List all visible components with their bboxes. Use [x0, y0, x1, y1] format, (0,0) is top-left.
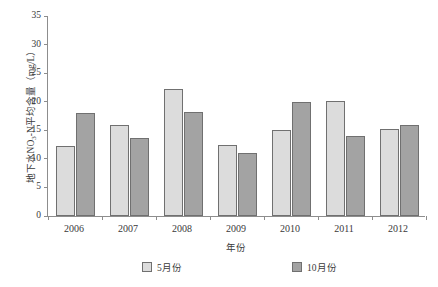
bar: [400, 125, 419, 216]
y-axis-tick-label: 25: [32, 66, 42, 79]
x-axis-title: 年份: [47, 240, 425, 254]
x-axis-tick-mark: [264, 216, 265, 220]
bar-group: [110, 17, 149, 216]
y-axis-tick-label: 15: [32, 123, 42, 136]
bar-group: [56, 17, 95, 216]
bar-group: [380, 17, 419, 216]
x-axis-tick-label: 2007: [98, 222, 158, 236]
bar-group: [164, 17, 203, 216]
y-axis-tick-label: 5: [36, 180, 41, 193]
bar-group: [272, 17, 311, 216]
plot-area: 05101520253035: [47, 17, 425, 217]
chart-figure: 地下水NO3-N平均含量（mg/L） 05101520253035 200620…: [0, 0, 438, 287]
bar: [76, 113, 95, 216]
x-axis-tick-label: 2010: [260, 222, 320, 236]
legend-label: 5月份: [157, 260, 182, 274]
x-axis-tick-mark: [48, 216, 49, 220]
bar: [110, 125, 129, 216]
x-axis-tick-mark: [372, 216, 373, 220]
bar-group: [326, 17, 365, 216]
x-axis-tick-mark: [318, 216, 319, 220]
bar: [218, 145, 237, 216]
bar: [272, 130, 291, 216]
legend-item[interactable]: 10月份: [292, 260, 337, 274]
bar: [326, 101, 345, 216]
x-axis-tick-mark: [102, 216, 103, 220]
bar: [184, 112, 203, 216]
legend-swatch-icon: [292, 262, 302, 272]
x-axis-tick-label: 2012: [368, 222, 428, 236]
y-axis-tick-label: 35: [32, 9, 42, 22]
x-axis-tick-label: 2008: [152, 222, 212, 236]
bar: [292, 102, 311, 216]
bar: [346, 136, 365, 216]
bar-group: [218, 17, 257, 216]
bar: [380, 129, 399, 216]
legend-label: 10月份: [307, 260, 337, 274]
bar-series-container: [48, 17, 425, 216]
y-axis-tick-label: 10: [32, 152, 42, 165]
y-axis-tick-label: 20: [32, 95, 42, 108]
y-axis-tick-label: 30: [32, 38, 42, 51]
bar: [130, 138, 149, 216]
x-axis-tick-label: 2009: [206, 222, 266, 236]
bar: [238, 153, 257, 216]
bar: [56, 146, 75, 216]
bar: [164, 89, 183, 216]
x-axis-tick-label: 2006: [44, 222, 104, 236]
x-axis-tick-mark: [210, 216, 211, 220]
x-axis-tick-mark: [156, 216, 157, 220]
legend-swatch-icon: [142, 262, 152, 272]
x-axis-tick-mark: [426, 216, 427, 220]
legend-item[interactable]: 5月份: [142, 260, 182, 274]
x-axis-tick-label: 2011: [314, 222, 374, 236]
y-axis-title-subscript: 3: [30, 136, 38, 140]
chart-legend: 5月份10月份: [47, 260, 425, 276]
y-axis-tick-label: 0: [36, 209, 41, 222]
